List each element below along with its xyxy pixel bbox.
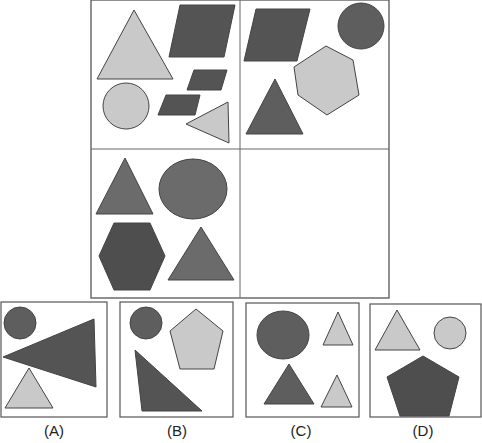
dark-parallelogram-shape xyxy=(169,5,235,57)
option-a-label: (A) xyxy=(24,422,84,439)
light-circle-shape xyxy=(103,83,149,129)
option-a[interactable] xyxy=(1,302,107,417)
puzzle-figure xyxy=(0,0,482,443)
light-circle-shape xyxy=(434,317,466,349)
dark-circle-shape xyxy=(4,307,36,339)
option-c[interactable] xyxy=(246,303,359,417)
dark-parallelogram-shape xyxy=(158,95,200,115)
dark-circle-shape xyxy=(159,159,227,219)
dark-parallelogram-shape xyxy=(187,70,227,90)
dark-circle-shape xyxy=(257,311,309,359)
dark-circle-shape xyxy=(130,307,162,339)
option-b-label: (B) xyxy=(147,422,207,439)
option-d-label: (D) xyxy=(393,422,453,439)
option-b[interactable] xyxy=(120,302,233,417)
option-d[interactable] xyxy=(370,304,481,417)
option-c-label: (C) xyxy=(271,422,331,439)
dark-circle-shape xyxy=(338,3,384,49)
